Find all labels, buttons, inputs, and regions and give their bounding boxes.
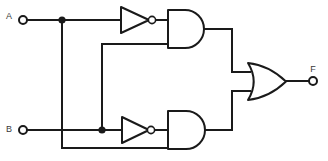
or-gate-body — [248, 63, 286, 100]
logic-circuit-diagram: A B F — [0, 0, 328, 161]
output-f-label: F — [310, 64, 316, 74]
and-gate-top[interactable] — [168, 10, 204, 48]
output-f-terminal[interactable] — [309, 77, 317, 85]
junction-layer — [58, 16, 105, 133]
junction-b-branch — [98, 126, 105, 133]
and-gate-bottom-body — [168, 111, 205, 149]
or-gate[interactable] — [248, 63, 286, 100]
not-gate-b-bubble — [147, 126, 154, 133]
not-gate-b-triangle — [122, 117, 149, 143]
input-a-terminal[interactable] — [19, 16, 27, 24]
gate-layer — [121, 7, 286, 149]
not-gate-a-triangle — [121, 7, 149, 33]
junction-a-branch — [58, 16, 65, 23]
not-gate-a[interactable] — [121, 7, 156, 33]
input-a-label: A — [6, 11, 12, 21]
not-gate-a-bubble — [148, 16, 155, 23]
and-gate-top-body — [168, 10, 204, 48]
input-b-terminal[interactable] — [19, 126, 27, 134]
circuit-canvas: A B F — [0, 0, 328, 161]
and-gate-bottom[interactable] — [168, 111, 205, 149]
not-gate-b[interactable] — [122, 117, 155, 143]
input-b-label: B — [6, 124, 12, 134]
